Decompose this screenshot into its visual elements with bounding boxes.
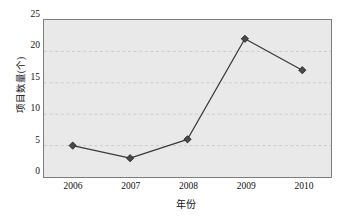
- x-axis-title: 年份: [40, 196, 332, 211]
- data-point-2008: [184, 136, 191, 143]
- x-tick-label: 2009: [223, 180, 269, 193]
- data-point-2006: [69, 142, 76, 149]
- y-axis-tick-labels: 25 20 15 10 5 0: [20, 14, 40, 178]
- x-tick-label: 2010: [281, 180, 327, 193]
- data-point-2007: [127, 155, 134, 162]
- y-tick-label: 5: [20, 135, 40, 145]
- gridlines: [44, 51, 331, 145]
- y-tick-label: 20: [20, 40, 40, 50]
- data-point-2010: [299, 67, 306, 74]
- y-tick-label: 0: [20, 166, 40, 176]
- y-tick-label: 15: [20, 72, 40, 82]
- x-tick-label: 2007: [108, 180, 154, 193]
- data-markers: [69, 35, 306, 162]
- y-tick-label: 10: [20, 103, 40, 113]
- x-axis-tick-labels: 2006 2007 2008 2009 2010: [43, 180, 332, 194]
- plot-svg: [44, 20, 331, 177]
- y-tick-label: 25: [20, 9, 40, 19]
- data-point-2009: [241, 35, 248, 42]
- x-tick-label: 2008: [166, 180, 212, 193]
- line-chart: 项目数量(个) 25 20 15 10 5 0: [0, 0, 342, 218]
- x-tick-label: 2006: [50, 180, 96, 193]
- plot-area: [43, 19, 332, 178]
